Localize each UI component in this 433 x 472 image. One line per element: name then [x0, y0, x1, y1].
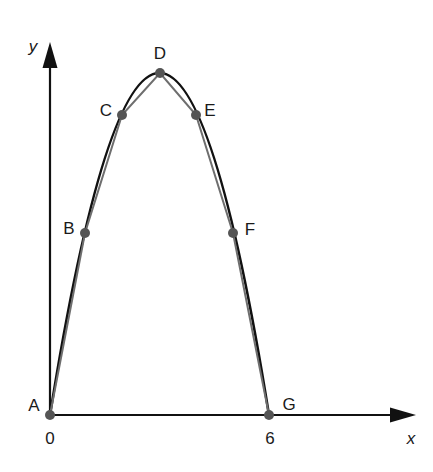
point-label-c: C: [100, 102, 112, 119]
point-e: [191, 110, 201, 120]
x-tick-label-6: 6: [265, 430, 274, 447]
x-tick-label-0: 0: [45, 430, 54, 447]
x-axis-label: x: [407, 430, 416, 447]
y-axis-label: y: [29, 38, 38, 55]
point-label-f: F: [245, 221, 255, 238]
point-c: [117, 110, 127, 120]
point-label-g: G: [282, 396, 295, 413]
point-label-b: B: [63, 220, 74, 237]
y-axis-arrow-icon: [43, 42, 58, 68]
point-label-a: A: [28, 397, 39, 414]
approximating-polyline: [50, 73, 269, 415]
point-g: [264, 410, 274, 420]
point-a: [45, 410, 55, 420]
point-f: [228, 228, 238, 238]
x-axis-arrow-icon: [390, 408, 416, 423]
point-d: [155, 68, 165, 78]
point-label-e: E: [204, 102, 215, 119]
point-label-d: D: [154, 45, 166, 62]
point-b: [80, 228, 90, 238]
